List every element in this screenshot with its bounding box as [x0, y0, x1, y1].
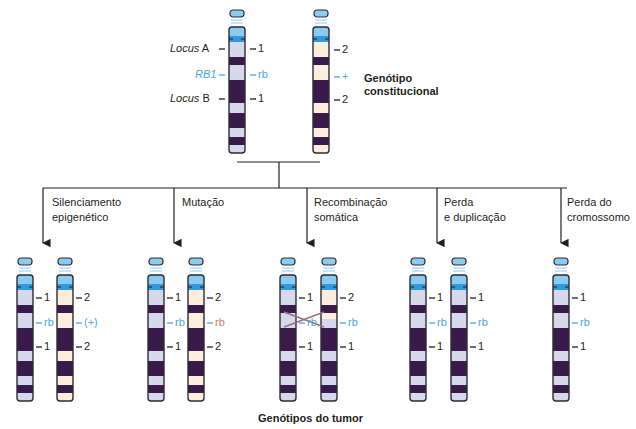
allele-label: 1	[348, 340, 354, 353]
process-label-chromosome-loss: Perda do cromossomo	[567, 195, 630, 225]
allele-label: 2	[348, 291, 354, 304]
allele-label: 2	[84, 291, 90, 304]
chrom2-rb-allele: +	[342, 70, 348, 83]
process-label-line: Perda do	[567, 195, 630, 210]
allele-label: 1	[437, 291, 443, 304]
allele-label: rb	[307, 316, 317, 329]
allele-label: 1	[437, 340, 443, 353]
process-label-line: Perda	[444, 195, 506, 210]
tumor-pair-recombination	[280, 258, 337, 401]
title-line-1: Genótipo	[364, 72, 439, 85]
allele-label: 1	[478, 291, 484, 304]
constitutional-chromosome-paternal	[313, 10, 329, 153]
process-label-line: Recombinação	[314, 195, 387, 210]
process-label-line: Silenciamento	[52, 195, 121, 210]
process-label-line: cromossomo	[567, 210, 630, 225]
process-label-loss-duplication: Perda e duplicação	[444, 195, 506, 225]
chrom1-locus-b-allele: 1	[258, 92, 264, 105]
allele-label: rb	[44, 316, 54, 329]
constitutional-genotype-title: Genótipo constitucional	[364, 72, 439, 98]
process-label-mutation: Mutação	[182, 195, 224, 210]
allele-label: 1	[580, 291, 586, 304]
allele-label: 2	[215, 340, 221, 353]
chrom1-rb-allele: rb	[258, 68, 268, 81]
process-label-line: e duplicação	[444, 210, 506, 225]
process-label-line: Mutação	[182, 195, 224, 210]
tumor-pair-mutation	[148, 258, 204, 401]
tumor-single-chromosome-loss	[553, 258, 569, 401]
allele-label: rb	[175, 316, 185, 329]
title-line-2: constitucional	[364, 85, 439, 98]
locus-a-label: Locus A	[170, 42, 209, 55]
locus-b-letter: B	[202, 92, 209, 104]
chrom1-locus-a-allele: 1	[258, 42, 264, 55]
process-label-epigenetic-silencing: Silenciamento epigenético	[52, 195, 121, 225]
allele-label: 2	[215, 291, 221, 304]
allele-label: 1	[175, 340, 181, 353]
allele-label: rb	[580, 316, 590, 329]
locus-a-word: Locus	[170, 42, 199, 54]
allele-label: (+)	[84, 316, 98, 329]
rb1-gene-label: RB1	[195, 68, 216, 81]
allele-label: 1	[307, 291, 313, 304]
allele-label: rb	[437, 316, 447, 329]
chrom2-locus-b-allele: 2	[342, 93, 348, 106]
locus-b-word: Locus	[170, 92, 199, 104]
allele-label: 1	[307, 340, 313, 353]
allele-label: 2	[84, 340, 90, 353]
process-label-somatic-recombination: Recombinação somática	[314, 195, 387, 225]
allele-label: 1	[44, 340, 50, 353]
allele-label: rb	[348, 316, 358, 329]
process-label-line: somática	[314, 210, 387, 225]
allele-label: 1	[580, 340, 586, 353]
allele-label: 1	[175, 291, 181, 304]
allele-label: 1	[478, 340, 484, 353]
constitutional-chromosome-maternal	[229, 10, 245, 153]
tumor-genotypes-title: Genótipos do tumor	[258, 412, 363, 425]
mutant-allele-label: rb	[215, 316, 225, 329]
allele-label: rb	[478, 316, 488, 329]
tumor-pair-loss-duplication	[410, 258, 467, 401]
tumor-pair-epigenetic	[17, 258, 73, 401]
process-label-line: epigenético	[52, 210, 121, 225]
chrom2-locus-a-allele: 2	[342, 43, 348, 56]
allele-label: 1	[44, 291, 50, 304]
locus-b-label: Locus B	[170, 92, 210, 105]
locus-a-letter: A	[202, 42, 209, 54]
